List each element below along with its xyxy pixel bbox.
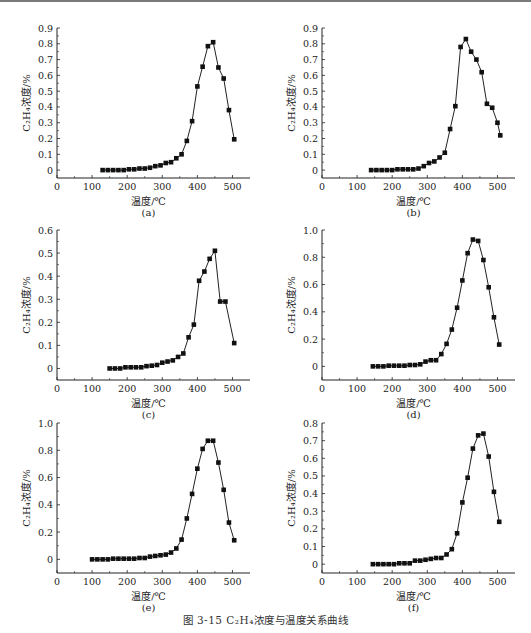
data-point-marker bbox=[400, 167, 405, 172]
data-point-marker bbox=[144, 364, 149, 369]
data-point-marker bbox=[476, 433, 481, 438]
data-point-marker bbox=[486, 454, 491, 459]
chart-svg: 00.10.20.30.40.50.60.70.80.9010020030040… bbox=[265, 10, 530, 215]
data-point-marker bbox=[227, 108, 232, 113]
y-tick-label: 0.5 bbox=[303, 86, 318, 97]
data-point-marker bbox=[485, 101, 490, 106]
x-tick-label: 300 bbox=[153, 576, 171, 587]
y-tick-label: 0.3 bbox=[303, 506, 318, 517]
data-point-marker bbox=[490, 105, 495, 110]
data-point-marker bbox=[127, 556, 132, 561]
x-tick-label: 200 bbox=[383, 181, 401, 192]
data-point-marker bbox=[123, 365, 128, 370]
data-point-marker bbox=[174, 156, 179, 161]
data-point-marker bbox=[492, 490, 497, 495]
x-tick-label: 500 bbox=[223, 181, 241, 192]
chart-panel-a: 00.10.20.30.40.50.60.70.80.9010020030040… bbox=[0, 10, 265, 215]
data-point-marker bbox=[153, 554, 158, 559]
data-point-marker bbox=[460, 500, 465, 505]
data-point-marker bbox=[107, 366, 112, 371]
y-tick-label: 0.2 bbox=[38, 317, 53, 328]
y-tick-label: 0.1 bbox=[38, 340, 53, 351]
data-point-marker bbox=[227, 520, 232, 525]
data-point-marker bbox=[113, 366, 118, 371]
chart-svg: 00.20.40.60.81.00100200300400500温度/℃(d)C… bbox=[265, 212, 530, 417]
y-tick-label: 0.1 bbox=[303, 149, 318, 160]
series-line bbox=[92, 441, 234, 560]
data-point-marker bbox=[407, 363, 412, 368]
data-point-marker bbox=[376, 364, 381, 369]
data-point-marker bbox=[428, 557, 433, 562]
data-point-marker bbox=[186, 335, 191, 340]
data-point-marker bbox=[211, 40, 216, 45]
y-tick-label: 0.8 bbox=[303, 418, 318, 429]
data-point-marker bbox=[128, 365, 133, 370]
x-tick-label: 500 bbox=[223, 383, 241, 394]
data-point-marker bbox=[374, 168, 379, 173]
data-point-marker bbox=[381, 364, 386, 369]
chart-panel-d: 00.20.40.60.81.00100200300400500温度/℃(d)C… bbox=[265, 212, 530, 417]
data-point-marker bbox=[163, 552, 168, 557]
data-point-marker bbox=[202, 269, 207, 274]
y-tick-label: 0.1 bbox=[38, 149, 53, 160]
y-tick-label: 0.9 bbox=[38, 23, 53, 34]
data-point-marker bbox=[200, 64, 205, 69]
data-point-marker bbox=[165, 359, 170, 364]
data-point-marker bbox=[498, 133, 503, 138]
x-tick-label: 200 bbox=[118, 576, 136, 587]
data-point-marker bbox=[439, 556, 444, 561]
data-point-marker bbox=[148, 554, 153, 559]
data-point-marker bbox=[121, 556, 126, 561]
x-tick-label: 400 bbox=[453, 383, 471, 394]
x-tick-label: 100 bbox=[348, 576, 366, 587]
data-point-marker bbox=[132, 556, 137, 561]
data-point-marker bbox=[206, 438, 211, 443]
data-point-marker bbox=[216, 65, 221, 70]
y-tick-label: 1.0 bbox=[38, 418, 53, 429]
x-axis-label: 温度/℃ bbox=[131, 590, 166, 602]
data-point-marker bbox=[185, 139, 190, 144]
y-tick-label: 0.2 bbox=[303, 133, 318, 144]
figure-caption: 图 3-15 C₂H₄浓度与温度关系曲线 bbox=[0, 612, 531, 627]
x-tick-label: 400 bbox=[453, 181, 471, 192]
data-point-marker bbox=[223, 299, 228, 304]
chart-svg: 00.10.20.30.40.50.60100200300400500温度/℃(… bbox=[0, 212, 265, 417]
y-tick-label: 0.3 bbox=[38, 294, 53, 305]
data-point-marker bbox=[176, 355, 181, 360]
x-tick-label: 200 bbox=[383, 576, 401, 587]
data-point-marker bbox=[221, 488, 226, 493]
data-point-marker bbox=[158, 553, 163, 558]
x-tick-label: 400 bbox=[453, 576, 471, 587]
y-tick-label: 0.6 bbox=[303, 279, 318, 290]
data-point-marker bbox=[458, 45, 463, 50]
y-tick-label: 0 bbox=[312, 559, 318, 570]
chart-panel-e: 00.20.40.60.81.00100200300400500温度/℃(e)C… bbox=[0, 405, 265, 610]
data-point-marker bbox=[464, 37, 469, 42]
data-point-marker bbox=[402, 363, 407, 368]
y-tick-label: 0.6 bbox=[303, 453, 318, 464]
y-tick-label: 0.2 bbox=[38, 133, 53, 144]
data-point-marker bbox=[213, 248, 218, 253]
chart-panel-b: 00.10.20.30.40.50.60.70.80.9010020030040… bbox=[265, 10, 530, 215]
data-point-marker bbox=[121, 168, 126, 173]
data-point-marker bbox=[428, 358, 433, 363]
y-tick-label: 0.3 bbox=[303, 117, 318, 128]
data-point-marker bbox=[137, 166, 142, 171]
data-point-marker bbox=[450, 547, 455, 552]
x-axis-label: 温度/℃ bbox=[396, 195, 431, 207]
y-axis-label: C₂H₄浓度/% bbox=[20, 74, 32, 131]
data-point-marker bbox=[179, 152, 184, 157]
data-point-marker bbox=[118, 366, 123, 371]
y-tick-label: 0.2 bbox=[303, 523, 318, 534]
data-point-marker bbox=[450, 327, 455, 332]
x-axis-label: 温度/℃ bbox=[131, 195, 166, 207]
x-tick-label: 100 bbox=[83, 576, 101, 587]
data-point-marker bbox=[411, 167, 416, 172]
data-point-marker bbox=[385, 168, 390, 173]
data-point-marker bbox=[142, 556, 147, 561]
x-tick-label: 500 bbox=[223, 576, 241, 587]
data-point-marker bbox=[127, 167, 132, 172]
data-point-marker bbox=[423, 359, 428, 364]
data-point-marker bbox=[149, 363, 154, 368]
x-tick-label: 400 bbox=[188, 576, 206, 587]
